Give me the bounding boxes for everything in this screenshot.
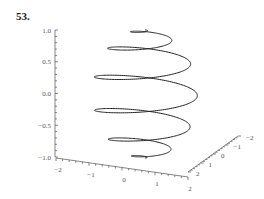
svg-text:1: 1 — [155, 180, 159, 188]
svg-text:0.5: 0.5 — [42, 58, 51, 66]
svg-text:−0.5: −0.5 — [38, 122, 51, 130]
svg-text:−1: −1 — [234, 143, 242, 151]
svg-text:0.0: 0.0 — [42, 90, 51, 98]
svg-text:1.0: 1.0 — [42, 27, 51, 35]
svg-text:2: 2 — [188, 185, 192, 193]
svg-text:−2: −2 — [54, 166, 62, 174]
tick-labels: 1.00.50.0−0.5−1.0−2−1012210−1−2 — [38, 27, 254, 194]
spiral-curve — [94, 30, 197, 158]
svg-text:2: 2 — [196, 170, 200, 178]
svg-text:−1.0: −1.0 — [38, 154, 51, 162]
svg-text:−1: −1 — [87, 171, 95, 179]
svg-text:0: 0 — [221, 152, 225, 160]
axes — [55, 30, 241, 180]
svg-text:1: 1 — [209, 161, 213, 169]
svg-text:−2: −2 — [246, 134, 254, 142]
3d-plot: 1.00.50.0−0.5−1.0−2−1012210−1−2 — [0, 0, 264, 199]
svg-text:0: 0 — [122, 176, 126, 184]
